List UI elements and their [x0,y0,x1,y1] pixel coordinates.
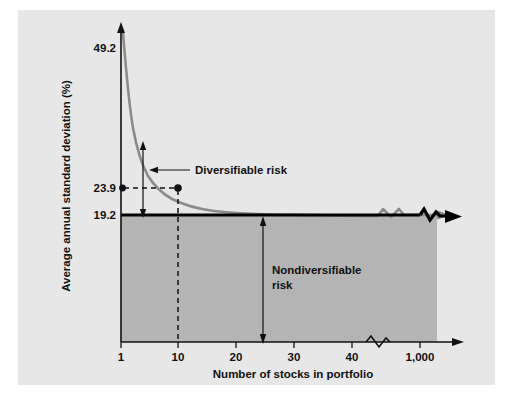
chart-figure: 49.2 23.9 19.2 1 10 20 30 40 1,000 Numbe… [0,0,511,398]
x-tick-label-1000: 1,000 [406,351,435,363]
y-tick-label-floor: 19.2 [94,209,116,221]
y-tick-label-mid: 23.9 [94,182,116,194]
x-tick-label-1: 1 [118,351,125,363]
highlight-data-point [174,184,182,192]
nondiversifiable-risk-label-line1: Nondiversifiable [272,264,361,276]
y-tick-label-top: 49.2 [94,42,116,54]
diversifiable-risk-label: Diversifiable risk [195,164,288,176]
risk-diversification-chart: 49.2 23.9 19.2 1 10 20 30 40 1,000 Numbe… [0,0,511,398]
x-axis-title: Number of stocks in portfolio [213,368,373,380]
x-tick-label-30: 30 [288,351,301,363]
x-tick-label-20: 20 [230,351,243,363]
nondiversifiable-risk-area [121,211,437,342]
x-tick-label-10: 10 [172,351,185,363]
x-tick-label-40: 40 [346,351,359,363]
y-axis-highlight-dot [119,185,126,192]
y-axis-title: Average annual standard deviation (%) [60,80,72,292]
nondiversifiable-risk-label-line2: risk [272,279,293,291]
